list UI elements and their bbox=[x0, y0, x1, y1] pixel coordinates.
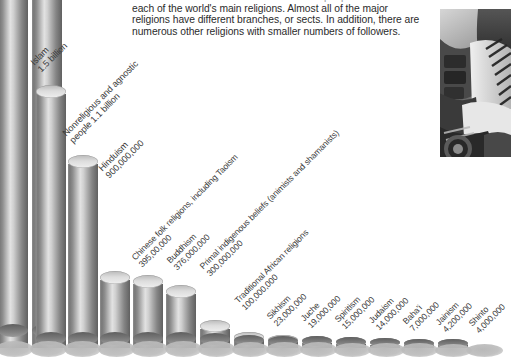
bar-shadow bbox=[266, 342, 303, 357]
bar-shadow bbox=[165, 341, 202, 357]
bar-shadow bbox=[98, 341, 135, 357]
bar-shadow bbox=[30, 341, 67, 357]
bar-shadow bbox=[0, 341, 33, 357]
bar-label-hinduism: Hinduism 900,000,000 bbox=[97, 131, 147, 181]
bar-label-nonreligious: Nonreligious and agnostic people 1.1 bil… bbox=[61, 59, 148, 146]
bar-top-ellipse bbox=[133, 275, 163, 288]
bar-label-spiritism: Spiritism 15,000,000 bbox=[333, 288, 376, 331]
bar-top-ellipse bbox=[36, 85, 66, 98]
label-line-1: Primal indigenous beliefs (animists and … bbox=[198, 128, 341, 271]
bar-shadow bbox=[198, 341, 235, 357]
bar-shadow bbox=[466, 344, 503, 357]
bar-chinese-folk[interactable] bbox=[100, 271, 130, 348]
bar-buddhism[interactable] bbox=[133, 275, 163, 348]
label-line-1: Nonreligious and agnostic bbox=[61, 59, 140, 138]
bar-top-ellipse bbox=[68, 155, 98, 168]
bar-body bbox=[68, 164, 98, 348]
bar-shadow bbox=[300, 342, 337, 357]
bar-label-shinto: Shinto 4,000,000 bbox=[467, 295, 507, 335]
bar-nonreligious[interactable] bbox=[36, 85, 66, 348]
label-line-2: people 1.1 billion bbox=[68, 66, 148, 146]
bar-label-sikhism: Sikhism 23,000,000 bbox=[265, 285, 308, 328]
bar-body bbox=[0, 0, 28, 348]
bar-shadow bbox=[334, 343, 371, 357]
bar-top-ellipse bbox=[100, 271, 130, 284]
bar-shadow bbox=[368, 343, 405, 357]
bar-label-juche: Juche 19,000,000 bbox=[299, 287, 342, 330]
bar-christianity[interactable] bbox=[0, 0, 28, 348]
bar-hinduism[interactable] bbox=[68, 155, 98, 348]
bar-top-ellipse bbox=[200, 320, 230, 332]
bar-shadow bbox=[401, 343, 438, 357]
bar-shadow bbox=[64, 341, 101, 357]
religion-population-chart-figure: This chart shows the estimated number of… bbox=[0, 0, 511, 364]
bar-primal-indigenous[interactable] bbox=[166, 285, 196, 348]
bar-chart: Islam 1.5 billion Nonreligious and agnos… bbox=[0, 0, 511, 364]
bar-label-judaism: Judaism 14,000,000 bbox=[367, 289, 410, 332]
bar-shadow bbox=[131, 341, 168, 357]
bar-label-jainism: Jainism 4,200,000 bbox=[434, 294, 474, 334]
bar-shadow bbox=[232, 342, 269, 357]
bar-top-ellipse bbox=[166, 285, 196, 298]
